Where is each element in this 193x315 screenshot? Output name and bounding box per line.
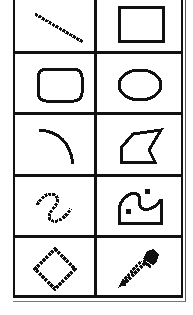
tool-freehand[interactable] xyxy=(15,177,97,238)
palette-shadow-right xyxy=(185,0,186,301)
rounded-rectangle-icon xyxy=(25,61,85,105)
arc-icon xyxy=(25,120,85,170)
tool-palette xyxy=(13,0,183,298)
line-icon xyxy=(25,4,85,44)
tool-regular-polygon[interactable] xyxy=(15,238,97,297)
freehand-fill-icon xyxy=(109,181,169,231)
tool-rounded-rectangle[interactable] xyxy=(15,54,97,115)
tool-oval[interactable] xyxy=(97,54,181,115)
oval-icon xyxy=(109,61,169,105)
palette-shadow-bottom xyxy=(13,301,186,302)
polygon-icon xyxy=(109,120,169,170)
diamond-icon xyxy=(25,243,85,293)
tool-grid xyxy=(15,0,181,295)
tool-arc[interactable] xyxy=(15,115,97,177)
rectangle-icon xyxy=(109,2,169,46)
tool-freehand-fill[interactable] xyxy=(97,177,181,238)
tool-eyedropper[interactable] xyxy=(97,238,181,297)
tool-rectangle[interactable] xyxy=(97,0,181,54)
eyedropper-icon xyxy=(109,243,169,293)
tool-polygon[interactable] xyxy=(97,115,181,177)
tool-line[interactable] xyxy=(15,0,97,54)
freehand-icon xyxy=(25,181,85,231)
